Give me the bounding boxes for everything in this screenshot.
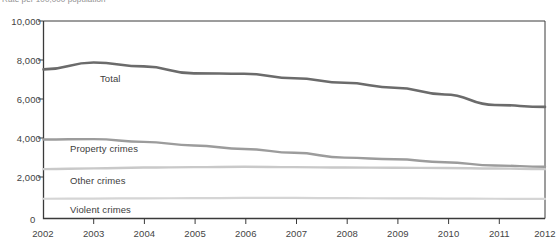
x-axis-ticks xyxy=(94,219,500,225)
crime-rate-line-chart: Rate per 100,000 population 10,000 8,000… xyxy=(0,0,556,249)
x-tick-2005: 2005 xyxy=(172,228,218,239)
series-label-other: Other crimes xyxy=(70,175,126,186)
series-label-violent: Violent crimes xyxy=(70,204,131,215)
axis-frame xyxy=(44,21,546,219)
series-line-total xyxy=(44,62,546,106)
series-line-other-crimes xyxy=(44,167,546,169)
x-tick-2009: 2009 xyxy=(375,228,421,239)
x-tick-2010: 2010 xyxy=(426,228,472,239)
x-tick-2004: 2004 xyxy=(121,228,167,239)
x-tick-2011: 2011 xyxy=(476,228,522,239)
series-line-violent-crimes xyxy=(44,198,546,199)
series-label-property: Property crimes xyxy=(70,143,138,154)
y-axis-ticks xyxy=(38,21,44,177)
x-tick-2007: 2007 xyxy=(274,228,320,239)
series-label-total: Total xyxy=(100,73,121,84)
x-tick-2012: 2012 xyxy=(522,228,556,239)
x-tick-2006: 2006 xyxy=(223,228,269,239)
x-tick-2003: 2003 xyxy=(71,228,117,239)
x-tick-2002: 2002 xyxy=(20,228,66,239)
x-tick-2008: 2008 xyxy=(324,228,370,239)
